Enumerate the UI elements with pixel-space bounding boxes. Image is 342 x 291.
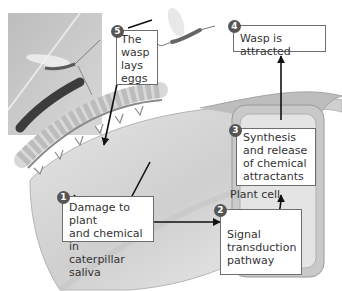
plant-cell-label: Plant cell: [230, 188, 280, 201]
step-4-box: Wasp is attracted: [233, 25, 326, 52]
step-3-box: Synthesis and release of chemical attrac…: [236, 128, 316, 186]
step-2-line: transduction: [227, 241, 295, 254]
step-1-line: caterpillar saliva: [69, 253, 147, 279]
step-4-badge: 4: [228, 20, 241, 33]
step-4-line: Wasp is attracted: [240, 32, 319, 58]
step-3-line: of chemical: [243, 157, 309, 170]
step-5-box: The wasp lays eggs: [116, 30, 158, 85]
step-1-badge: 1: [57, 191, 70, 204]
step-5-line: lays: [121, 59, 153, 72]
step-5-badge: 5: [111, 25, 124, 38]
step-5-line: wasp: [121, 46, 153, 59]
step-1-box: Damage to plant and chemical in caterpil…: [62, 196, 154, 242]
step-1-line: Damage to plant: [69, 201, 147, 227]
step-3-line: and release: [243, 144, 309, 157]
step-3-badge: 3: [229, 124, 242, 137]
step-5-line: eggs: [121, 72, 153, 85]
step-3-line: Synthesis: [243, 131, 309, 144]
step-3-line: attractants: [243, 170, 309, 183]
step-2-box: Signal transduction pathway: [220, 209, 302, 275]
flying-wasp-illustration: [158, 6, 215, 46]
step-2-line: pathway: [227, 254, 295, 267]
step-2-badge: 2: [214, 204, 227, 217]
step-1-line: and chemical in: [69, 227, 147, 253]
diagram-canvas: The wasp lays eggs 5 Wasp is attracted 4…: [0, 0, 342, 291]
step-2-line: Signal: [227, 228, 295, 241]
step-5-line: The: [121, 33, 153, 46]
